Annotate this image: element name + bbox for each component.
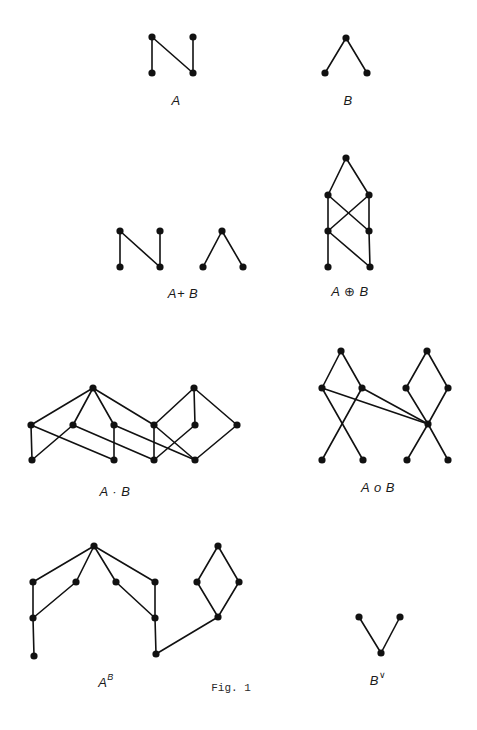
label-text: A (171, 93, 180, 108)
node (199, 263, 206, 270)
node (189, 69, 196, 76)
node (342, 154, 349, 161)
edge (328, 158, 346, 195)
node (150, 456, 157, 463)
label-text: A ⊕ B (331, 284, 368, 299)
edge (120, 231, 160, 267)
node (110, 456, 117, 463)
node (29, 614, 36, 621)
diagram-b-dual (355, 613, 403, 656)
node (321, 69, 328, 76)
node (239, 263, 246, 270)
node (28, 456, 35, 463)
node (116, 263, 123, 270)
label-text: A o B (361, 480, 395, 495)
node (324, 227, 331, 234)
node (337, 347, 344, 354)
edge (346, 158, 369, 195)
diagram-a-oplus-b (324, 154, 373, 270)
node (29, 578, 36, 585)
diagram-label-a-circ-b: A o B (361, 480, 395, 495)
node (214, 542, 221, 549)
edge (222, 231, 243, 267)
edge (322, 351, 341, 388)
node (359, 456, 366, 463)
lattice-figure (0, 0, 477, 730)
edge (341, 351, 362, 388)
node (148, 69, 155, 76)
edge (407, 424, 428, 460)
edge (218, 582, 239, 617)
diagram-label-a-plus-b: A+ B (168, 286, 199, 301)
node (365, 191, 372, 198)
diagram-label-a-dot-b: A · B (100, 484, 131, 499)
node (152, 650, 159, 657)
edge (194, 388, 237, 425)
diagram-a (148, 33, 196, 76)
diagram-a-pow-b (29, 542, 242, 659)
node (218, 227, 225, 234)
node (112, 578, 119, 585)
edge (197, 582, 218, 617)
edge (31, 425, 114, 460)
diagram-label-b-dual: B∨ (370, 672, 386, 688)
edge (31, 425, 32, 460)
label-text: A+ B (168, 286, 199, 301)
node (150, 421, 157, 428)
node (151, 578, 158, 585)
node (365, 227, 372, 234)
label-text: B (343, 93, 352, 108)
node (151, 614, 158, 621)
label-text: B (370, 673, 379, 688)
node (444, 384, 451, 391)
node (190, 384, 197, 391)
diagram-b (321, 34, 370, 76)
edge (427, 351, 448, 388)
edge (93, 388, 154, 425)
node (363, 69, 370, 76)
node (402, 384, 409, 391)
node (214, 613, 221, 620)
node (191, 456, 198, 463)
node (366, 263, 373, 270)
node (324, 191, 331, 198)
node (27, 421, 34, 428)
node (235, 578, 242, 585)
edge (322, 388, 428, 424)
node (69, 421, 76, 428)
edge (428, 424, 448, 460)
diagram-a-circ-b (318, 347, 451, 463)
node (30, 652, 37, 659)
label-superscript: B (107, 672, 114, 682)
figure-caption: Fig. 1 (211, 682, 251, 694)
label-text: A (98, 675, 107, 690)
label-superscript: ∨ (379, 670, 386, 680)
diagram-label-a-pow-b: AB (98, 674, 114, 690)
node (90, 542, 97, 549)
node (110, 421, 117, 428)
node (318, 384, 325, 391)
node (444, 456, 451, 463)
edge (325, 38, 346, 73)
edge (369, 231, 370, 267)
node (403, 456, 410, 463)
node (324, 263, 331, 270)
edge (428, 388, 448, 424)
edge (33, 618, 34, 656)
edge (381, 617, 400, 653)
node (72, 578, 79, 585)
node (423, 347, 430, 354)
edge (328, 231, 370, 267)
edge (116, 582, 155, 618)
edge (156, 617, 218, 654)
edge (195, 425, 237, 460)
edge (194, 388, 195, 425)
diagram-label-a: A (171, 93, 180, 108)
diagram-a-dot-b (27, 384, 240, 463)
node (358, 384, 365, 391)
node (191, 421, 198, 428)
node (189, 33, 196, 40)
node (116, 227, 123, 234)
edge (362, 388, 428, 424)
node (396, 613, 403, 620)
